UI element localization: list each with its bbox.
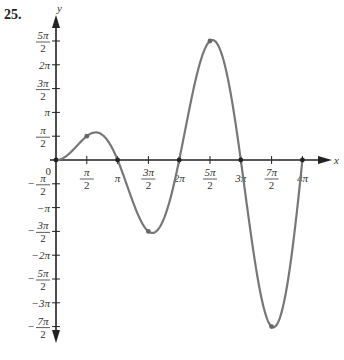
y-tick-label: 5π2 (36, 29, 50, 54)
y-tick-label: −3π (32, 297, 51, 309)
x-tick-label: 3π2 (141, 166, 155, 191)
svg-text:3π: 3π (142, 166, 155, 178)
data-point (84, 134, 89, 139)
y-arrow-icon (52, 15, 60, 28)
y-tick-label: π2 (36, 124, 50, 149)
y-tick-label: π (44, 106, 50, 118)
data-point (238, 158, 243, 163)
svg-text:3π: 3π (36, 77, 49, 89)
svg-text:2: 2 (84, 179, 90, 191)
svg-text:π: π (84, 166, 90, 178)
svg-text:5π: 5π (204, 166, 216, 178)
svg-text:2: 2 (40, 137, 46, 149)
svg-text:3π: 3π (36, 219, 49, 231)
svg-text:−: − (28, 224, 34, 236)
svg-text:2: 2 (40, 232, 46, 244)
data-point (177, 158, 182, 163)
x-tick-label: π2 (80, 166, 94, 191)
origin-label: 0 (46, 165, 52, 177)
chart-plot: xy0π2π3π22π5π23π7π24π5π22π3π2ππ2−π2−π−3π… (0, 0, 344, 360)
svg-text:−: − (28, 320, 34, 332)
y-arrow-down-icon (52, 330, 60, 343)
svg-text:−: − (28, 272, 34, 284)
svg-text:4π: 4π (297, 172, 309, 184)
svg-text:−π: −π (37, 202, 50, 214)
svg-text:−3π: −3π (32, 297, 51, 309)
y-tick-label: −π (37, 202, 50, 214)
x-tick-label: π (115, 172, 121, 184)
svg-text:π: π (40, 172, 46, 184)
svg-text:7π: 7π (266, 166, 278, 178)
y-tick-label: 3π2 (36, 77, 50, 102)
svg-text:2π: 2π (39, 59, 51, 71)
x-tick-label: 5π2 (203, 166, 217, 191)
data-point (54, 158, 59, 163)
svg-text:2: 2 (40, 90, 46, 102)
svg-text:2: 2 (146, 179, 152, 191)
svg-text:2: 2 (40, 185, 46, 197)
svg-text:2: 2 (269, 179, 275, 191)
x-arrow-icon (318, 156, 332, 164)
x-axis-label: x (333, 154, 339, 166)
y-tick-label: −3π2 (28, 219, 50, 244)
x-tick-label: 4π (297, 172, 309, 184)
svg-text:2: 2 (40, 42, 46, 54)
svg-text:−: − (28, 177, 34, 189)
x-tick-label: 7π2 (265, 166, 279, 191)
svg-text:5π: 5π (37, 267, 49, 279)
svg-text:2: 2 (40, 280, 46, 292)
data-point (146, 229, 151, 234)
svg-text:π: π (115, 172, 121, 184)
svg-text:−2π: −2π (32, 249, 51, 261)
svg-text:π: π (44, 106, 50, 118)
y-tick-label: 2π (39, 59, 51, 71)
svg-text:7π: 7π (37, 315, 49, 327)
data-point (115, 158, 120, 163)
svg-text:2: 2 (207, 179, 213, 191)
data-point (269, 324, 274, 329)
y-tick-label: −7π2 (28, 315, 50, 340)
svg-text:π: π (40, 124, 46, 136)
svg-text:5π: 5π (37, 29, 49, 41)
svg-text:2: 2 (40, 328, 46, 340)
data-point (208, 39, 213, 44)
data-point (300, 158, 305, 163)
y-tick-label: −2π (32, 249, 51, 261)
y-axis-label: y (56, 2, 62, 14)
y-tick-label: −5π2 (28, 267, 50, 292)
